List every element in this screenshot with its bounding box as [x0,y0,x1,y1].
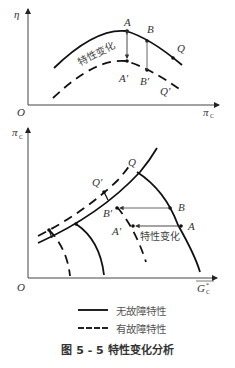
point-A-prime [125,59,129,63]
bottom-normal-speed-line-low [76,224,104,275]
label-A: A [123,16,131,28]
top-origin-label: O [17,106,25,118]
bottom-chart: π C O G * C Q Q′ B B′ A A′ 特性变化 [12,126,217,295]
top-y-axis-label: η [14,8,19,20]
solid-line-swatch [78,309,108,311]
legend-label-fault: 有故障特性 [116,321,166,336]
bottom-label-A-prime: A′ [111,225,122,237]
bottom-point-low-normal [74,222,78,226]
bottom-label-B-prime: B′ [103,207,113,219]
bottom-label-Q: Q [128,156,136,168]
top-chart: η O π C A B Q A′ B′ Q′ 特性变化 [14,8,219,119]
label-Q-prime: Q′ [160,85,171,97]
bottom-y-axis-label: π [12,126,18,138]
legend-item-normal: 无故障特性 [78,303,166,317]
bottom-x-axis-sup: * [206,282,209,288]
bottom-y-axis-sub: C [19,134,23,140]
bottom-label-A: A [187,220,195,232]
Q-prime-link [104,192,108,200]
figure-caption: 图 5 - 5 特性变化分析 [0,341,235,357]
bottom-x-axis-label: G [197,282,205,294]
legend-item-fault: 有故障特性 [78,321,166,335]
bottom-x-axis-sub: C [206,289,210,295]
bottom-normal-surge-line [38,148,157,243]
point-A [125,29,129,33]
bottom-label-Q-prime: Q′ [92,176,103,188]
legend-label-normal: 无故障特性 [116,303,166,318]
bottom-point-B-prime [115,206,119,210]
top-annotation: 特性变化 [75,39,116,68]
top-normal-curve [54,31,182,68]
label-B-prime: B′ [140,75,150,87]
bottom-annotation: 特性变化 [140,230,180,242]
bottom-origin-label: O [17,281,25,293]
dashed-line-swatch [78,327,108,329]
label-Q: Q [177,42,185,54]
label-A-prime: A′ [118,72,129,84]
top-x-axis-label: π [203,106,209,118]
bottom-point-A-prime [131,224,135,228]
label-B: B [147,23,154,35]
top-x-axis-sub: C [210,113,214,119]
point-Q [171,56,175,60]
bottom-label-B: B [178,201,185,213]
